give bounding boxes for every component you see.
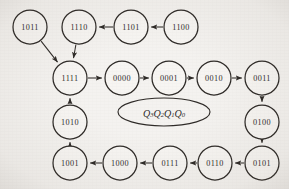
state-node-0100[interactable]: 0100: [245, 105, 279, 139]
state-node-label-1101: 1101: [122, 23, 139, 32]
state-node-label-0000: 0000: [113, 74, 131, 83]
state-node-label-0101: 0101: [253, 159, 271, 168]
state-node-0001[interactable]: 0001: [152, 61, 186, 95]
state-node-label-1110: 1110: [70, 23, 87, 32]
state-node-label-0110: 0110: [206, 159, 223, 168]
state-node-0000[interactable]: 0000: [105, 61, 139, 95]
state-node-label-1100: 1100: [172, 23, 189, 32]
state-node-1010[interactable]: 1010: [53, 105, 87, 139]
state-node-1011[interactable]: 1011: [13, 10, 47, 44]
state-transition-diagram: 1011111011011100111100000001001000110100…: [0, 0, 289, 189]
nodes-layer: 1011111011011100111100000001001000110100…: [13, 10, 279, 180]
state-node-label-1010: 1010: [61, 118, 79, 127]
state-node-label-0010: 0010: [205, 74, 223, 83]
state-node-0011[interactable]: 0011: [245, 61, 279, 95]
state-node-label-0001: 0001: [160, 74, 178, 83]
state-node-0101[interactable]: 0101: [245, 146, 279, 180]
state-node-0110[interactable]: 0110: [198, 146, 232, 180]
state-node-1001[interactable]: 1001: [53, 146, 87, 180]
state-node-1101[interactable]: 1101: [114, 10, 148, 44]
state-node-label-1111: 1111: [62, 74, 79, 83]
state-node-label-0111: 0111: [161, 159, 178, 168]
state-node-label-1011: 1011: [21, 23, 38, 32]
state-node-label-0011: 0011: [253, 74, 270, 83]
state-node-1110[interactable]: 1110: [62, 10, 96, 44]
state-node-label-1001: 1001: [61, 159, 79, 168]
edge-1011-to-1111: [41, 41, 57, 62]
state-diagram-container: 1011111011011100111100000001001000110100…: [0, 0, 289, 189]
edge-1110-to-1111: [74, 45, 76, 58]
legend-group: Q3Q2Q1Q0: [118, 98, 210, 126]
state-node-0111[interactable]: 0111: [153, 146, 187, 180]
state-node-0010[interactable]: 0010: [197, 61, 231, 95]
state-node-label-0100: 0100: [253, 118, 271, 127]
state-node-label-1000: 1000: [111, 159, 129, 168]
legend-label-q3q2q1q0: Q3Q2Q1Q0: [143, 107, 186, 118]
state-node-1100[interactable]: 1100: [164, 10, 198, 44]
state-node-1000[interactable]: 1000: [103, 146, 137, 180]
state-node-1111[interactable]: 1111: [53, 61, 87, 95]
